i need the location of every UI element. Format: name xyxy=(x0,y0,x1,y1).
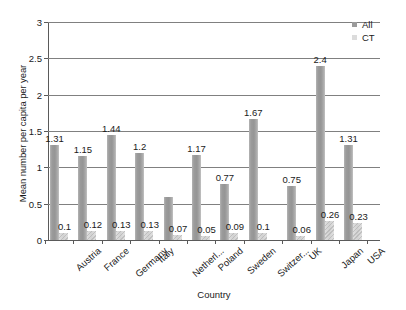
x-tick-mark xyxy=(367,240,368,244)
bar-ct[interactable] xyxy=(116,231,125,240)
y-tick-mark xyxy=(44,167,48,168)
legend-label: All xyxy=(362,19,373,30)
bar-value-label: 0.75 xyxy=(282,174,301,185)
bar-value-label: 0.13 xyxy=(112,219,131,230)
bar-value-label: 2.4 xyxy=(313,54,326,65)
bar-value-label: 1.15 xyxy=(74,144,93,155)
x-tick-mark xyxy=(102,240,103,244)
x-axis-line xyxy=(48,240,380,241)
bar-value-label: 0.77 xyxy=(216,172,235,183)
y-tick-mark xyxy=(44,58,48,59)
bar-value-label: 0.1 xyxy=(257,221,270,232)
gridline xyxy=(48,131,380,132)
gridline xyxy=(48,58,380,59)
y-tick-label: 2 xyxy=(37,89,42,100)
x-tick-mark xyxy=(311,240,312,244)
legend-swatch-ct xyxy=(352,35,357,40)
bar-all[interactable] xyxy=(344,145,353,240)
bar-chart: Mean number per capita per year 00.511.5… xyxy=(0,0,406,310)
bar-ct[interactable] xyxy=(353,223,362,240)
bar-value-label: 1.17 xyxy=(187,143,206,154)
y-axis-title: Mean number per capita per year xyxy=(17,34,28,234)
y-tick-mark xyxy=(44,95,48,96)
y-tick-label: 3 xyxy=(37,17,42,28)
plot-area: 00.511.522.53 1.310.11.150.121.440.131.2… xyxy=(48,22,380,241)
x-category-label: Japan xyxy=(338,245,365,270)
legend-swatch-all xyxy=(352,22,357,27)
x-category-label: Austria xyxy=(74,245,103,273)
legend-label: CT xyxy=(362,32,375,43)
bar-value-label: 0.07 xyxy=(169,223,188,234)
bar-value-label: 0.13 xyxy=(140,219,159,230)
bar-value-label: 0.1 xyxy=(58,221,71,232)
bar-value-label: 0.26 xyxy=(321,209,340,220)
x-tick-mark xyxy=(159,240,160,244)
bar-value-label: 1.31 xyxy=(339,133,358,144)
bar-value-label: 0.09 xyxy=(226,221,245,232)
y-tick-mark xyxy=(44,204,48,205)
bar-ct[interactable] xyxy=(173,235,182,240)
x-tick-mark xyxy=(130,240,131,244)
x-tick-mark xyxy=(45,240,46,244)
x-tick-mark xyxy=(339,240,340,244)
y-tick-label: 0 xyxy=(37,235,42,246)
y-tick-label: 2.5 xyxy=(29,53,42,64)
x-category-label: Switzer... xyxy=(275,245,311,279)
bar-value-label: 0.23 xyxy=(349,211,368,222)
bar-value-label: 1.44 xyxy=(102,123,121,134)
bar-ct[interactable] xyxy=(87,231,96,240)
x-tick-mark xyxy=(73,240,74,244)
x-category-label: Sweden xyxy=(245,245,278,276)
x-category-label: USA xyxy=(365,245,387,266)
bar-value-label: 1.2 xyxy=(133,141,146,152)
y-tick-label: 0.5 xyxy=(29,198,42,209)
x-tick-mark xyxy=(215,240,216,244)
bar-ct[interactable] xyxy=(258,233,267,240)
x-tick-mark xyxy=(244,240,245,244)
bar-ct[interactable] xyxy=(229,233,238,240)
bar-value-label: 0.12 xyxy=(84,219,103,230)
bar-ct[interactable] xyxy=(325,221,334,240)
x-tick-mark xyxy=(187,240,188,244)
y-tick-label: 1.5 xyxy=(29,126,42,137)
x-category-label: UK xyxy=(307,245,324,262)
bar-ct[interactable] xyxy=(144,231,153,240)
gridline xyxy=(48,95,380,96)
y-tick-mark xyxy=(44,22,48,23)
x-category-label: France xyxy=(102,245,131,273)
bar-value-label: 0.06 xyxy=(292,224,311,235)
bar-ct[interactable] xyxy=(201,236,210,240)
x-axis-title: Country xyxy=(48,289,380,300)
bar-value-label: 0.05 xyxy=(197,224,216,235)
bar-ct[interactable] xyxy=(296,236,305,240)
bar-value-label: 1.31 xyxy=(45,133,64,144)
bar-ct[interactable] xyxy=(59,233,68,240)
bar-value-label: 1.67 xyxy=(244,107,263,118)
legend-item[interactable]: All xyxy=(352,18,400,31)
y-tick-label: 1 xyxy=(37,162,42,173)
gridline xyxy=(48,22,380,23)
legend: AllCT xyxy=(352,18,400,44)
gridline xyxy=(48,167,380,168)
gridline xyxy=(48,204,380,205)
legend-item[interactable]: CT xyxy=(352,31,400,44)
x-tick-mark xyxy=(282,240,283,244)
